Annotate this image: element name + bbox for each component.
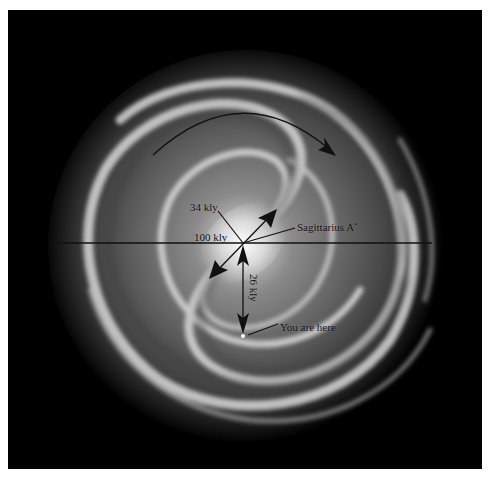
galaxy-illustration bbox=[8, 10, 482, 469]
sun-label: You are here bbox=[280, 322, 336, 333]
diameter-label: 100 kly bbox=[194, 232, 227, 243]
sun-position-dot bbox=[241, 334, 245, 338]
radius-label: 34 kly bbox=[190, 202, 218, 213]
center-label: Sagittarius A* bbox=[297, 222, 358, 233]
sun-distance-label: 26 kly bbox=[248, 274, 259, 302]
center-label-text: Sagittarius A bbox=[297, 221, 354, 233]
center-label-superscript: * bbox=[354, 221, 358, 229]
galaxy-image-frame: 34 kly 100 kly Sagittarius A* 26 kly You… bbox=[8, 10, 482, 469]
